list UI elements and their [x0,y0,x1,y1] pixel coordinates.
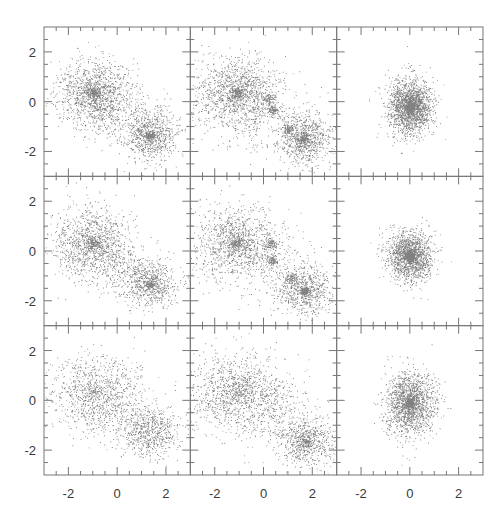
y-tick-label: -2 [24,294,36,309]
scatter-panel-r1-c0 [41,176,190,325]
scatter-panel-r1-c1 [174,176,347,334]
x-tick-label: 0 [114,486,121,501]
x-tick-label: 0 [406,486,413,501]
tick-marks [190,176,336,325]
scatter-panel-r0-c1 [169,26,350,182]
panel-frame [190,176,336,325]
x-tick-label: 2 [309,486,316,501]
scatter-panel-r2-c0 [29,326,203,478]
x-tick-label: -2 [63,486,75,501]
data-points [41,183,190,316]
y-tick-label: -2 [24,144,36,159]
panel-frame [44,326,190,475]
scatter-grid-figure: -202-202-202-202-202-202 [0,0,495,521]
data-points [370,217,452,300]
data-points [169,26,350,182]
data-points [374,344,452,465]
y-tick-label: 0 [29,95,36,110]
y-tick-label: 0 [29,244,36,259]
scatter-panel-r0-c0 [26,27,196,176]
data-points [369,46,448,154]
scatter-panel-r2-c2 [337,326,483,475]
x-tick-label: -2 [355,486,367,501]
scatter-panel-r1-c2 [337,176,483,325]
x-tick-label: -2 [209,486,221,501]
data-points [26,42,196,176]
x-tick-label: 2 [162,486,169,501]
y-tick-label: 2 [29,194,36,209]
scatter-panel-r2-c1 [164,313,351,475]
x-tick-label: 0 [260,486,267,501]
y-tick-label: 2 [29,45,36,60]
tick-marks [44,27,190,176]
panel-grid [26,26,483,478]
y-tick-label: -2 [24,443,36,458]
y-tick-label: 0 [29,393,36,408]
data-points [174,186,347,335]
x-tick-label: 2 [455,486,462,501]
data-points [29,337,203,478]
y-tick-label: 2 [29,344,36,359]
scatter-panel-r0-c2 [337,27,483,176]
panel-frame [44,27,190,176]
tick-marks [44,326,190,475]
